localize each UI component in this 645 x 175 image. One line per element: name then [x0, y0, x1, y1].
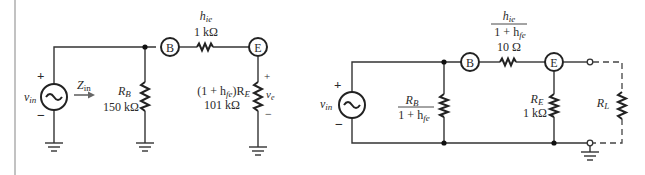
right-node-b-label: B: [466, 56, 474, 70]
left-source-ground-icon: [45, 143, 63, 151]
circuit-diagram: + vin − Zin RB 150 kΩ B hie 1 kΩ E: [0, 0, 645, 175]
left-junction-dot: [142, 44, 147, 49]
rl-label: RL: [596, 96, 609, 111]
right-re-value: 1 kΩ: [523, 106, 547, 120]
rl-dashed-wire-bottom: [593, 119, 622, 143]
right-source-label: vin: [320, 97, 333, 112]
ve-label: ve: [266, 88, 275, 102]
output-terminal-top: [587, 59, 593, 65]
left-rb-resistor-icon: [141, 82, 149, 111]
left-re-resistor-icon: [254, 82, 262, 111]
right-hie-den: 1 + hfe: [494, 25, 525, 40]
left-hie-resistor-icon: [197, 44, 213, 51]
left-source-label: vin: [24, 90, 37, 105]
right-source-plus: +: [334, 77, 341, 92]
left-circuit: + vin − Zin RB 150 kΩ B hie 1 kΩ E: [24, 9, 275, 155]
right-source-minus: −: [335, 117, 343, 132]
zin-arrow-icon: [88, 92, 95, 99]
right-re-junction-dot: [551, 140, 556, 145]
right-bottom-junction-dot: [441, 140, 446, 145]
right-circuit: + vin − RB 1 + hfe B hie 1 + hfe 10 Ω E …: [320, 9, 626, 160]
left-re-value: 101 kΩ: [204, 98, 240, 112]
right-ground-icon: [581, 152, 599, 160]
left-rb-value: 150 kΩ: [103, 100, 139, 114]
output-terminal-bottom: [587, 140, 593, 146]
right-hie-num: hie: [503, 9, 516, 24]
right-re-resistor-icon: [550, 94, 558, 117]
left-hie-label: hie: [200, 9, 213, 24]
rl-resistor-icon: [618, 92, 626, 119]
left-source-plus: +: [37, 68, 44, 83]
right-hie-value: 10 Ω: [497, 40, 521, 54]
sine-icon: [46, 94, 62, 100]
right-re-label: RE: [530, 92, 544, 107]
zin-label: Zin: [77, 78, 91, 93]
ve-minus: −: [265, 107, 272, 121]
rl-dashed-wire-top: [593, 62, 622, 92]
right-node-e-label: E: [550, 56, 557, 70]
left-rb-label: RB: [117, 84, 131, 99]
left-node-b-label: B: [166, 41, 174, 55]
left-hie-value: 1 kΩ: [194, 25, 218, 39]
sine-icon: [344, 102, 360, 108]
left-re-label: (1 + hfe)RE: [197, 84, 250, 99]
left-ac-source: [41, 84, 67, 110]
right-rb-num: RB: [405, 93, 419, 108]
left-source-minus: −: [37, 108, 45, 123]
left-rb-ground-icon: [136, 143, 154, 151]
left-top-wire: [54, 47, 156, 84]
right-hie-resistor-icon: [500, 59, 516, 66]
ve-plus: +: [264, 70, 270, 82]
right-ac-source: [339, 92, 365, 118]
left-re-ground-icon: [249, 147, 267, 155]
left-node-e-label: E: [254, 41, 261, 55]
right-top-junction-dot: [441, 59, 446, 64]
right-rb-den: 1 + hfe: [398, 108, 429, 123]
right-rb-resistor-icon: [440, 94, 448, 117]
